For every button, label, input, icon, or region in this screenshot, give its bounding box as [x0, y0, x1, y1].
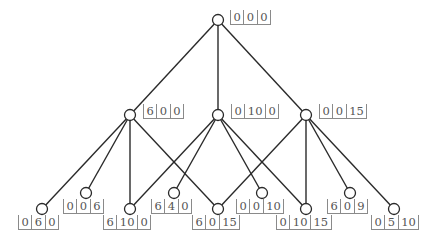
- edge-n000-n600: [130, 20, 218, 115]
- label-cell: 15: [346, 104, 368, 118]
- label-cell: 0: [236, 199, 249, 213]
- edge-n000-n0015: [218, 20, 306, 115]
- label-cell: 0: [371, 215, 384, 229]
- label-cell: 0: [332, 104, 345, 118]
- node-n0010: [257, 188, 268, 199]
- node-label: 006: [63, 199, 104, 214]
- label-cell: 0: [205, 215, 218, 229]
- node-label: 000: [230, 10, 271, 25]
- node-label: 0010: [236, 199, 284, 214]
- label-cell: 0: [340, 199, 353, 213]
- label-cell: 10: [289, 215, 310, 229]
- label-cell: 0: [243, 10, 256, 24]
- node-n6015: [213, 204, 224, 215]
- label-cell: 6: [90, 199, 104, 213]
- label-cell: 6: [327, 199, 340, 213]
- label-cell: 10: [263, 199, 285, 213]
- label-cell: 0: [170, 104, 184, 118]
- label-cell: 6: [103, 215, 116, 229]
- node-label: 0015: [319, 104, 367, 119]
- label-cell: 0: [45, 215, 59, 229]
- label-cell: 0: [178, 199, 192, 213]
- label-cell: 0: [63, 199, 76, 213]
- label-cell: 0: [265, 104, 279, 118]
- node-n000: [213, 15, 224, 26]
- label-cell: 6: [192, 215, 205, 229]
- node-n609: [345, 188, 356, 199]
- label-cell: 15: [310, 215, 332, 229]
- label-cell: 0: [231, 104, 244, 118]
- label-cell: 0: [18, 215, 31, 229]
- node-label: 6015: [192, 215, 240, 230]
- node-n0015: [301, 110, 312, 121]
- label-cell: 9: [354, 199, 368, 213]
- label-cell: 0: [257, 10, 271, 24]
- node-label: 0510: [371, 215, 419, 230]
- node-label: 6100: [103, 215, 151, 230]
- node-label: 609: [327, 199, 368, 214]
- node-label: 01015: [276, 215, 332, 230]
- label-cell: 0: [276, 215, 289, 229]
- node-label: 060: [18, 215, 59, 230]
- node-n0100: [213, 110, 224, 121]
- node-n006: [81, 188, 92, 199]
- label-cell: 0: [76, 199, 89, 213]
- label-cell: 0: [249, 199, 262, 213]
- node-label: 600: [143, 104, 184, 119]
- label-cell: 6: [143, 104, 156, 118]
- label-cell: 5: [384, 215, 397, 229]
- node-label: 640: [151, 199, 192, 214]
- label-cell: 10: [116, 215, 137, 229]
- label-cell: 0: [156, 104, 169, 118]
- label-cell: 10: [244, 104, 265, 118]
- label-cell: 6: [151, 199, 164, 213]
- node-n600: [125, 110, 136, 121]
- label-cell: 4: [164, 199, 177, 213]
- node-n01015: [301, 204, 312, 215]
- label-cell: 6: [31, 215, 44, 229]
- label-cell: 0: [319, 104, 332, 118]
- node-label: 0100: [231, 104, 279, 119]
- node-n0510: [389, 204, 400, 215]
- label-cell: 15: [219, 215, 241, 229]
- label-cell: 0: [230, 10, 243, 24]
- node-n060: [37, 204, 48, 215]
- node-n640: [169, 188, 180, 199]
- label-cell: 10: [398, 215, 420, 229]
- node-n6100: [125, 204, 136, 215]
- label-cell: 0: [137, 215, 151, 229]
